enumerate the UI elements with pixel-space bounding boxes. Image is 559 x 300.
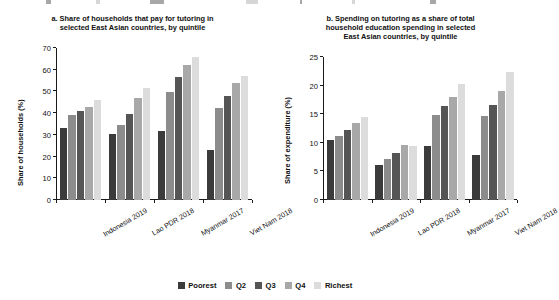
y-axis-tick-mark — [320, 170, 323, 171]
bar-q3 — [441, 106, 449, 200]
legend-label: Q4 — [295, 281, 305, 290]
x-axis-tick-mark — [105, 200, 106, 203]
x-axis-tick-label: Lao PDR 2018 — [151, 206, 196, 237]
panel-a-x-axis-labels: Indonesia 2019Lao PDR 2018Myanmar 2017Vi… — [56, 200, 252, 260]
x-axis-tick-mark — [252, 200, 253, 203]
y-axis-tick-label: 50 — [43, 87, 51, 96]
y-axis-tick-label: 0 — [47, 196, 51, 205]
x-axis-tick-mark — [517, 200, 518, 203]
panel-b-y-axis-label: Share of expenditure (%) — [283, 97, 292, 184]
legend-swatch — [255, 282, 262, 289]
bar-q2 — [481, 116, 489, 200]
bar-poorest — [472, 155, 480, 200]
legend-label: Richest — [325, 281, 352, 290]
bar-q4 — [352, 123, 360, 200]
y-axis-tick-mark — [53, 177, 56, 178]
panel-b-x-axis-labels: Indonesia 2019Lao PDR 2018Myanmar 2017Vi… — [323, 200, 517, 260]
bar-q4 — [183, 65, 191, 200]
y-axis-tick-mark — [53, 69, 56, 70]
bar-q4 — [449, 97, 457, 200]
y-axis-tick-label: 30 — [43, 130, 51, 139]
x-axis-tick-mark — [323, 200, 324, 203]
x-axis-tick-label: Myanmar 2017 — [465, 206, 511, 238]
bar-group — [203, 48, 252, 200]
x-axis-tick-label: Viet Nam 2018 — [514, 206, 559, 238]
bar-q4 — [232, 83, 240, 200]
bar-poorest — [158, 131, 166, 200]
bar-richest — [361, 117, 369, 201]
y-axis-tick-label: 0 — [314, 196, 318, 205]
bar-q3 — [392, 153, 400, 200]
panel-title-line: East Asian countries, by quintile — [283, 32, 518, 41]
x-axis-tick-mark — [203, 200, 204, 203]
panel-a-y-axis-label: Share of households (%) — [16, 99, 25, 186]
bar-richest — [94, 100, 102, 200]
bar-q2 — [215, 108, 223, 200]
bar-group — [469, 57, 518, 200]
bar-q4 — [401, 145, 409, 200]
bar-poorest — [109, 134, 117, 200]
bar-q3 — [175, 77, 183, 200]
y-axis-tick-label: 20 — [310, 81, 318, 90]
panel-a-bar-groups — [56, 48, 252, 200]
clip-artifact-mark — [352, 0, 355, 4]
chart-panel-b: b. Spending on tutoring as a share of to… — [265, 14, 530, 264]
chart-panel-a: a. Share of households that pay for tuto… — [0, 14, 265, 264]
clip-artifact-mark — [430, 0, 436, 4]
y-axis-tick-mark — [53, 156, 56, 157]
panel-b-bar-groups — [323, 57, 517, 200]
bar-q2 — [166, 92, 174, 200]
x-axis-tick-mark — [154, 200, 155, 203]
legend-swatch — [285, 282, 292, 289]
y-axis-tick-label: 10 — [43, 174, 51, 183]
x-axis-tick-label: Indonesia 2019 — [102, 206, 149, 238]
bar-group — [154, 48, 203, 200]
legend-swatch — [314, 282, 321, 289]
y-axis-tick-label: 60 — [43, 65, 51, 74]
legend-item-q2[interactable]: Q2 — [225, 281, 246, 290]
bar-q4 — [85, 107, 93, 200]
bar-group — [420, 57, 469, 200]
legend-item-richest[interactable]: Richest — [314, 281, 352, 290]
x-axis-tick-mark — [469, 200, 470, 203]
legend-item-q3[interactable]: Q3 — [255, 281, 276, 290]
bar-group — [372, 57, 421, 200]
bar-poorest — [327, 140, 335, 200]
legend-item-q4[interactable]: Q4 — [285, 281, 306, 290]
legend-swatch — [225, 282, 232, 289]
bar-poorest — [60, 128, 68, 200]
y-axis-tick-label: 10 — [310, 138, 318, 147]
panel-title-line: b. Spending on tutoring as a share of to… — [283, 14, 518, 23]
panel-a-plot-area: Indonesia 2019Lao PDR 2018Myanmar 2017Vi… — [56, 48, 252, 200]
clipped-header-artifact — [0, 0, 530, 10]
x-axis-tick-label: Myanmar 2017 — [200, 206, 246, 238]
bar-q2 — [335, 136, 343, 200]
panel-b-title: b. Spending on tutoring as a share of to… — [283, 14, 518, 42]
clip-artifact-mark — [150, 0, 164, 4]
panel-title-line: a. Share of households that pay for tuto… — [14, 14, 251, 23]
clip-artifact-mark — [96, 0, 100, 4]
bar-richest — [506, 72, 514, 200]
y-axis-tick-mark — [320, 85, 323, 86]
bar-q2 — [68, 115, 76, 200]
x-axis-tick-mark — [56, 200, 57, 203]
panel-a-title: a. Share of households that pay for tuto… — [14, 14, 251, 32]
x-axis-tick-mark — [372, 200, 373, 203]
panels-row: a. Share of households that pay for tuto… — [0, 14, 530, 264]
legend-item-poorest[interactable]: Poorest — [178, 281, 217, 290]
chart-legend: PoorestQ2Q3Q4Richest — [0, 281, 530, 290]
y-axis-tick-label: 20 — [43, 152, 51, 161]
y-axis-tick-mark — [53, 112, 56, 113]
panel-title-line: selected East Asian countries, by quinti… — [14, 23, 251, 32]
bar-q2 — [117, 125, 125, 200]
x-axis-tick-label: Indonesia 2019 — [368, 206, 415, 238]
bar-poorest — [375, 165, 383, 200]
y-axis-tick-mark — [320, 56, 323, 57]
y-axis-tick-label: 70 — [43, 44, 51, 53]
bar-richest — [143, 88, 151, 200]
x-axis-tick-label: Lao PDR 2018 — [417, 206, 462, 237]
legend-label: Poorest — [188, 281, 216, 290]
bar-richest — [192, 57, 200, 200]
panel-title-line: household education spending in selected — [283, 23, 518, 32]
